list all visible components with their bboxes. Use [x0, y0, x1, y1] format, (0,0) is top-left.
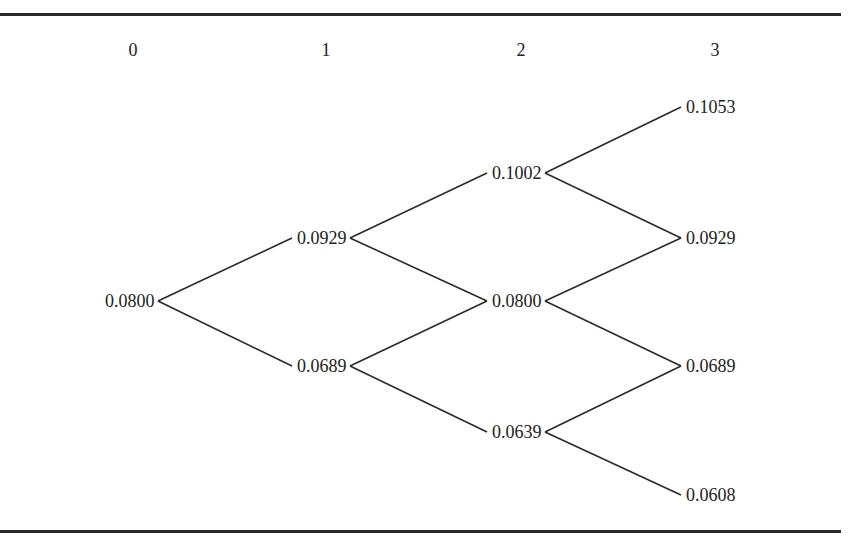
edge-n2_1-n3_2: [545, 301, 681, 366]
node-step3-uud-rate: 0.0929: [686, 228, 736, 248]
edge-n2_1-n3_1: [545, 238, 681, 301]
edge-n1_0-n2_0: [350, 173, 487, 238]
edge-n2_0-n3_0: [545, 107, 681, 173]
edge-n1_1-n2_1: [350, 301, 487, 366]
node-step3-uuu-rate: 0.1053: [686, 97, 736, 117]
edge-n0_0-n1_1: [158, 301, 292, 366]
tree-edges: [0, 0, 848, 538]
node-step3-ddd-rate: 0.0608: [686, 485, 736, 505]
node-step2-dd-rate: 0.0639: [492, 422, 542, 442]
edge-n2_2-n3_2: [545, 366, 681, 432]
node-step1-down-rate: 0.0689: [297, 356, 347, 376]
bottom-rule: [0, 530, 841, 533]
edge-n2_0-n3_1: [545, 173, 681, 238]
edge-n2_2-n3_3: [545, 432, 681, 495]
edge-n1_0-n2_1: [350, 238, 487, 301]
node-step1-up-rate: 0.0929: [297, 228, 347, 248]
node-step3-udd-rate: 0.0689: [686, 356, 736, 376]
node-step2-ud-rate: 0.0800: [492, 291, 542, 311]
edge-n1_1-n2_2: [350, 366, 487, 432]
node-step0-rate: 0.0800: [105, 291, 155, 311]
edge-n0_0-n1_0: [158, 238, 292, 301]
node-step2-uu-rate: 0.1002: [492, 163, 542, 183]
